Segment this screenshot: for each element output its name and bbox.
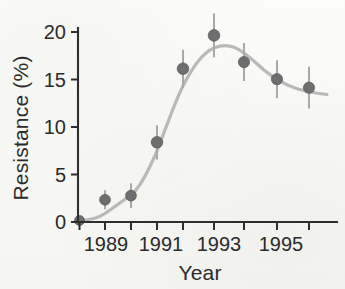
x-tick-label-1993: 1993 bbox=[197, 233, 242, 255]
data-point-1992 bbox=[177, 63, 189, 75]
data-point-1990 bbox=[126, 190, 137, 201]
y-tick-label-5: 5 bbox=[55, 164, 66, 186]
y-tick-label-0: 0 bbox=[55, 211, 66, 233]
error-bars bbox=[80, 14, 310, 224]
y-axis: 0 5 10 15 20 Resistance (%) bbox=[9, 21, 78, 233]
y-tick-label-20: 20 bbox=[44, 21, 66, 43]
data-point-1993 bbox=[208, 30, 220, 42]
data-point-1996 bbox=[303, 82, 314, 93]
x-tick-label-1995: 1995 bbox=[259, 233, 304, 255]
x-tick-label-1991: 1991 bbox=[139, 233, 184, 255]
data-point-1991 bbox=[151, 137, 163, 149]
x-axis-title: Year bbox=[178, 261, 221, 284]
figure-panel: 0 5 10 15 20 Resistance (%) 1989 1991 19… bbox=[0, 0, 345, 289]
data-point-1989 bbox=[100, 194, 111, 205]
x-tick-label-1989: 1989 bbox=[84, 233, 129, 255]
data-point-1995 bbox=[271, 74, 282, 85]
data-markers bbox=[75, 30, 315, 226]
y-tick-label-15: 15 bbox=[44, 69, 66, 91]
x-axis: 1989 1991 1993 1995 Year bbox=[78, 222, 337, 284]
resistance-vs-year-chart: 0 5 10 15 20 Resistance (%) 1989 1991 19… bbox=[0, 0, 345, 289]
y-tick-label-10: 10 bbox=[44, 116, 66, 138]
fitted-curve bbox=[80, 46, 328, 221]
data-point-1994 bbox=[238, 57, 249, 68]
y-axis-title: Resistance (%) bbox=[9, 55, 32, 200]
